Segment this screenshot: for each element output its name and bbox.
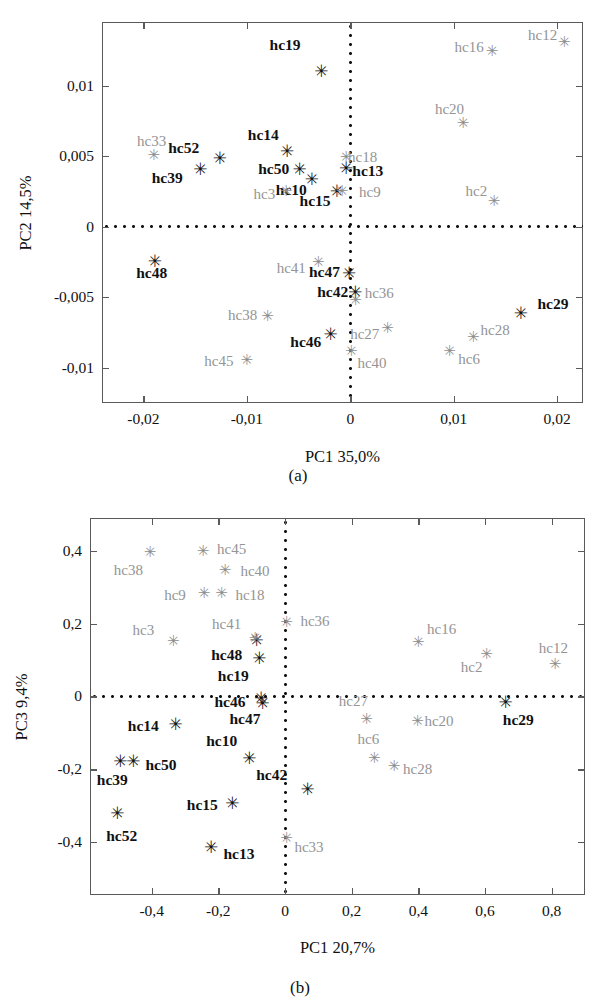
data-point-label-hc2: hc2 bbox=[461, 659, 483, 674]
data-point-label-hc28: hc28 bbox=[480, 322, 509, 337]
panel-caption-b: (b) bbox=[290, 978, 310, 998]
pca-figure: -0,02-0,0100,010,020,010,0050-0,005-0,01… bbox=[0, 0, 603, 1006]
x-tick-a bbox=[557, 22, 558, 29]
data-point-label-hc3: hc3 bbox=[254, 187, 276, 202]
data-point-label-hc47: hc47 bbox=[230, 711, 261, 727]
data-point-hc52: ✳ bbox=[213, 150, 227, 167]
x-tick-b bbox=[485, 518, 486, 525]
data-point-hc15: ✳ bbox=[225, 794, 239, 811]
data-point-label-hc33: hc33 bbox=[294, 839, 323, 854]
data-point-hc40: ✳ bbox=[345, 344, 358, 359]
data-point-label-hc38: hc38 bbox=[114, 562, 143, 577]
y-tick-a bbox=[102, 227, 109, 228]
data-point-label-hc14: hc14 bbox=[128, 719, 159, 735]
x-tick-label-b: 0,6 bbox=[475, 902, 494, 920]
y-tick-label-b: 0,4 bbox=[22, 542, 82, 560]
data-point-hc40: ✳ bbox=[219, 562, 232, 577]
data-point-hc3: ✳ bbox=[167, 634, 180, 649]
y-tick-a bbox=[576, 86, 583, 87]
data-point-hc52: ✳ bbox=[110, 805, 124, 822]
data-point-hc46: ✳ bbox=[323, 325, 337, 342]
data-point-hc33: ✳ bbox=[147, 148, 160, 163]
data-point-hc3: ✳ bbox=[280, 184, 293, 199]
data-point-hc12: ✳ bbox=[558, 34, 571, 49]
data-point-hc41: ✳ bbox=[249, 631, 262, 646]
data-point-label-hc46: hc46 bbox=[290, 334, 321, 350]
x-tick-b bbox=[485, 888, 486, 895]
data-point-label-hc50: hc50 bbox=[146, 757, 177, 773]
data-point-hc10: ✳ bbox=[305, 170, 319, 187]
data-point-label-hc9: hc9 bbox=[359, 185, 381, 200]
data-point-hc45: ✳ bbox=[241, 352, 254, 367]
y-tick-label-a: -0,01 bbox=[34, 359, 94, 377]
y-tick-b bbox=[578, 551, 585, 552]
x-tick-a bbox=[143, 396, 144, 403]
x-tick-a bbox=[247, 396, 248, 403]
data-point-label-hc52: hc52 bbox=[168, 141, 199, 157]
data-point-label-hc16: hc16 bbox=[427, 622, 456, 637]
data-point-label-hc18: hc18 bbox=[235, 588, 264, 603]
y-tick-label-a: 0 bbox=[34, 218, 94, 236]
x-tick-label-b: 0 bbox=[281, 902, 289, 920]
x-tick-a bbox=[350, 396, 351, 403]
y-tick-b bbox=[578, 624, 585, 625]
x-tick-b bbox=[218, 888, 219, 895]
x-tick-b bbox=[552, 518, 553, 525]
data-point-label-hc41: hc41 bbox=[212, 617, 241, 632]
data-point-label-hc16: hc16 bbox=[455, 39, 484, 54]
x-tick-label-a: 0,01 bbox=[440, 410, 467, 428]
data-point-label-hc50: hc50 bbox=[258, 161, 289, 177]
x-tick-b bbox=[418, 518, 419, 525]
data-point-label-hc41: hc41 bbox=[277, 260, 306, 275]
data-point-hc38: ✳ bbox=[144, 544, 157, 559]
x-tick-b bbox=[285, 888, 286, 895]
data-point-hc16: ✳ bbox=[486, 43, 499, 58]
data-point-hc28: ✳ bbox=[388, 759, 401, 774]
data-point-label-hc12: hc12 bbox=[528, 28, 557, 43]
data-point-hc47: ✳ bbox=[256, 695, 270, 712]
data-point-hc42: ✳ bbox=[301, 780, 315, 797]
data-point-hc41: ✳ bbox=[312, 254, 325, 269]
x-tick-b bbox=[352, 518, 353, 525]
y-axis-title-b: PC3 9,4% bbox=[12, 673, 32, 740]
x-tick-b bbox=[152, 518, 153, 525]
data-point-hc12: ✳ bbox=[549, 657, 562, 672]
x-tick-b bbox=[285, 518, 286, 525]
data-point-hc13: ✳ bbox=[204, 838, 218, 855]
data-point-hc19: ✳ bbox=[314, 62, 328, 79]
x-tick-a bbox=[454, 22, 455, 29]
data-point-hc16: ✳ bbox=[412, 634, 425, 649]
y-tick-b bbox=[578, 696, 585, 697]
data-point-label-hc15: hc15 bbox=[187, 797, 218, 813]
x-tick-label-b: 0,2 bbox=[342, 902, 361, 920]
panel-caption-a: (a) bbox=[289, 466, 308, 486]
y-axis-title-a: PC2 14,5% bbox=[16, 175, 36, 250]
y-tick-b bbox=[578, 769, 585, 770]
y-tick-a bbox=[102, 86, 109, 87]
data-point-hc14: ✳ bbox=[280, 143, 294, 160]
data-point-label-hc33: hc33 bbox=[137, 134, 166, 149]
y-tick-label-a: -0,005 bbox=[34, 288, 94, 306]
data-point-label-hc10: hc10 bbox=[206, 733, 237, 749]
x-axis-title-a: PC1 35,0% bbox=[305, 447, 380, 467]
data-point-hc36: ✳ bbox=[349, 292, 362, 307]
y-tick-label-a: 0,01 bbox=[34, 77, 94, 95]
x-tick-label-a: -0,01 bbox=[231, 410, 263, 428]
data-point-label-hc3: hc3 bbox=[132, 623, 154, 638]
data-point-hc38: ✳ bbox=[261, 308, 274, 323]
data-point-label-hc45: hc45 bbox=[217, 541, 246, 556]
data-point-hc33: ✳ bbox=[280, 830, 293, 845]
data-point-label-hc19: hc19 bbox=[270, 38, 301, 54]
x-tick-label-b: 0,8 bbox=[542, 902, 561, 920]
data-point-label-hc27: hc27 bbox=[339, 693, 368, 708]
y-tick-b bbox=[90, 551, 97, 552]
data-point-hc39: ✳ bbox=[193, 161, 207, 178]
data-point-hc9: ✳ bbox=[336, 183, 349, 198]
x-tick-b bbox=[352, 888, 353, 895]
data-point-label-hc27: hc27 bbox=[350, 326, 379, 341]
data-point-hc50: ✳ bbox=[126, 753, 140, 770]
y-tick-label-b: 0,2 bbox=[22, 615, 82, 633]
data-point-hc20: ✳ bbox=[457, 115, 470, 130]
data-point-hc14: ✳ bbox=[169, 715, 183, 732]
data-point-label-hc20: hc20 bbox=[435, 101, 464, 116]
